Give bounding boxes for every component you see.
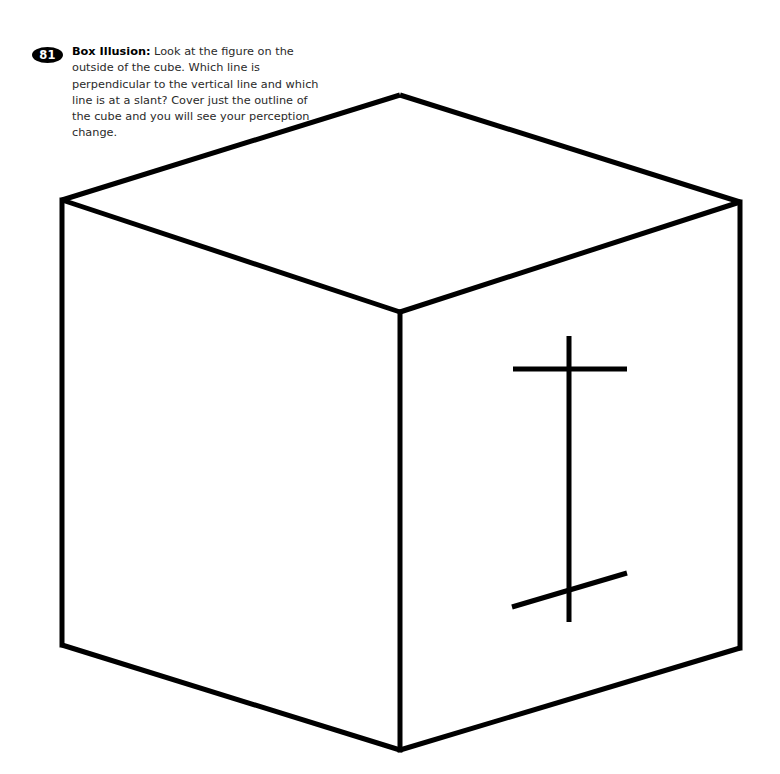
bottom-right-edge — [400, 648, 740, 750]
illusion-page: 81 Box Illusion: Look at the figure on t… — [0, 0, 780, 774]
caption-body: Look at the figure on the outside of the… — [72, 45, 319, 139]
center-right-edge — [400, 202, 740, 312]
illusion-marks — [512, 336, 627, 622]
item-number-badge: 81 — [32, 47, 63, 63]
caption-title: Box Illusion: — [72, 45, 151, 58]
caption-text: Box Illusion: Look at the figure on the … — [72, 44, 322, 142]
center-left-edge — [62, 200, 400, 312]
cube-outline — [62, 95, 740, 753]
bottom-left-edge — [62, 645, 400, 750]
top-right-edge — [400, 95, 740, 202]
